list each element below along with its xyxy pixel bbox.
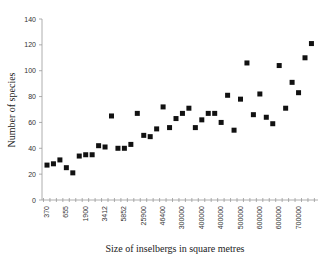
data-point	[64, 165, 69, 170]
data-point	[128, 142, 133, 147]
data-point	[122, 146, 127, 151]
data-point	[186, 106, 191, 111]
y-tick-label: 40	[28, 145, 36, 152]
data-point	[232, 128, 237, 133]
scatter-chart: 020406080100120140 370655190034125852259…	[0, 0, 331, 268]
x-tick-label: 500000	[237, 206, 244, 229]
data-point	[251, 112, 256, 117]
data-point	[193, 125, 198, 130]
data-point	[167, 125, 172, 130]
data-point	[290, 80, 295, 85]
data-points	[45, 41, 314, 175]
data-point	[161, 104, 166, 109]
data-point	[70, 170, 75, 175]
data-point	[296, 90, 301, 95]
x-tick-label: 3412	[101, 206, 108, 222]
data-point	[57, 157, 62, 162]
x-tick-label: 300000	[178, 206, 185, 229]
data-point	[103, 144, 108, 149]
y-axis-label: Number of species	[6, 72, 17, 147]
data-point	[206, 111, 211, 116]
x-tick-label: 600000	[256, 206, 263, 229]
data-point	[283, 106, 288, 111]
data-point	[212, 111, 217, 116]
x-axis-label: Size of inselbergs in square metres	[106, 243, 245, 254]
y-tick-label: 140	[24, 16, 36, 23]
data-point	[264, 115, 269, 120]
x-tick-label: 700000	[295, 206, 302, 229]
x-axis: 3706551900341258522590046400300000400000…	[42, 198, 318, 229]
data-point	[51, 161, 56, 166]
data-point	[219, 120, 224, 125]
data-point	[154, 126, 159, 131]
data-point	[77, 154, 82, 159]
y-tick-label: 0	[32, 197, 36, 204]
data-point	[257, 91, 262, 96]
data-point	[174, 116, 179, 121]
data-point	[225, 93, 230, 98]
x-tick-label: 600000	[275, 206, 282, 229]
x-tick-label: 655	[62, 206, 69, 218]
data-point	[90, 152, 95, 157]
data-point	[199, 117, 204, 122]
x-tick-label: 5852	[120, 206, 127, 222]
data-point	[180, 111, 185, 116]
y-tick-label: 60	[28, 119, 36, 126]
y-tick-label: 100	[24, 67, 36, 74]
data-point	[277, 63, 282, 68]
y-axis: 020406080100120140	[24, 16, 42, 204]
data-point	[83, 152, 88, 157]
y-tick-label: 80	[28, 93, 36, 100]
x-tick-label: 400000	[217, 206, 224, 229]
data-point	[135, 111, 140, 116]
data-point	[238, 97, 243, 102]
data-point	[109, 113, 114, 118]
x-tick-label: 25900	[140, 206, 147, 226]
data-point	[141, 133, 146, 138]
data-point	[115, 146, 120, 151]
data-point	[309, 41, 314, 46]
x-tick-label: 1900	[82, 206, 89, 222]
data-point	[148, 134, 153, 139]
data-point	[303, 55, 308, 60]
y-tick-label: 20	[28, 171, 36, 178]
data-point	[270, 121, 275, 126]
data-point	[244, 60, 249, 65]
x-tick-label: 370	[43, 206, 50, 218]
x-tick-label: 46400	[159, 206, 166, 226]
data-point	[96, 143, 101, 148]
data-point	[45, 163, 50, 168]
y-tick-label: 120	[24, 41, 36, 48]
x-tick-label: 400000	[198, 206, 205, 229]
